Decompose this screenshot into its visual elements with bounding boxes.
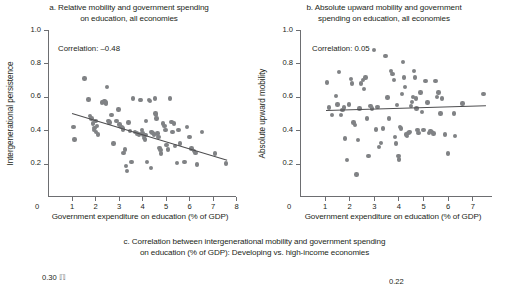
panel-a-title-line1: a. Relative mobility and government spen… [10, 2, 248, 13]
scatter-point [362, 87, 366, 91]
scatter-point [185, 125, 189, 129]
x-axis-tick: 7 [213, 197, 214, 201]
scatter-point [126, 120, 130, 124]
scatter-point [397, 157, 401, 161]
scatter-point [410, 100, 414, 104]
scatter-point [154, 116, 158, 120]
scatter-point [82, 76, 86, 80]
panel-c-left-axis-top-tick: 0.30ℿ [42, 273, 66, 282]
scatter-point [200, 130, 204, 134]
scatter-point [399, 126, 403, 130]
scatter-point [182, 160, 186, 164]
panel-a-y-axis-line [48, 30, 49, 197]
scatter-point [334, 94, 338, 98]
scatter-point [443, 132, 447, 136]
x-axis-tick: 5 [166, 197, 167, 201]
scatter-point [149, 166, 153, 170]
panel-c-left-axis-top-value: 0.30 [42, 273, 57, 282]
scatter-point [354, 172, 358, 176]
scatter-point [170, 130, 174, 134]
panel-a-title-line2: on education, all economies [10, 13, 248, 24]
scatter-point [337, 70, 341, 74]
scatter-point [433, 79, 437, 83]
scatter-point [440, 96, 444, 100]
y-axis-tick: 0.6 [296, 97, 300, 98]
chart-panel-b: b. Absolute upward mobility and governme… [255, 0, 509, 225]
figure-container: a. Relative mobility and government spen… [0, 0, 509, 288]
scatter-point [452, 111, 456, 115]
scatter-point [176, 128, 180, 132]
scatter-point [71, 125, 75, 129]
scatter-point [163, 128, 167, 132]
scatter-point [412, 69, 416, 73]
x-axis-tick-label: 2 [93, 202, 97, 211]
panel-c-right-axis-top-value: 0.22 [389, 277, 404, 286]
panel-b-y-axis-line [300, 30, 301, 197]
x-axis-tick-label: 7 [211, 202, 215, 211]
scatter-point [330, 113, 334, 117]
y-axis-tick: 0.4 [44, 130, 48, 131]
scatter-point [403, 85, 407, 89]
scatter-point [402, 75, 406, 79]
scatter-point [111, 141, 115, 145]
scatter-point [390, 72, 394, 76]
scatter-point [407, 130, 411, 134]
x-axis-tick-label: 7 [471, 202, 475, 211]
scatter-point [395, 103, 399, 107]
x-axis-tick: 2 [95, 197, 96, 201]
x-axis-tick-label: 1 [323, 202, 327, 211]
scatter-point [350, 81, 354, 85]
y-axis-tick-label: 0.8 [30, 58, 41, 67]
panel-c-title-line2: on education (% of GDP): Developing vs. … [0, 247, 509, 258]
scatter-point [95, 124, 99, 128]
y-axis-tick-label: 0.4 [282, 125, 293, 134]
scatter-point [387, 116, 391, 120]
scatter-point [195, 162, 199, 166]
panel-c-title: c. Correlation between intergenerational… [0, 236, 509, 259]
scatter-point [347, 102, 351, 106]
scatter-point [131, 96, 135, 100]
panel-a-plot-area: 0 0.20.40.60.81.012345678 [48, 30, 236, 197]
x-axis-tick-label: 4 [397, 202, 401, 211]
scatter-point [129, 160, 133, 164]
scatter-point [421, 128, 425, 132]
scatter-point [143, 137, 147, 141]
scatter-point [418, 90, 422, 94]
scatter-point [139, 98, 143, 102]
scatter-point [414, 96, 418, 100]
trend-line [71, 113, 226, 161]
x-axis-tick: 7 [472, 197, 473, 201]
scatter-point [109, 113, 113, 117]
scatter-point [339, 113, 343, 117]
scatter-point [377, 145, 381, 149]
scatter-point [224, 161, 228, 165]
scatter-point [168, 96, 172, 100]
scatter-point [343, 136, 347, 140]
x-axis-tick: 3 [119, 197, 120, 201]
scatter-point [379, 141, 383, 145]
y-axis-tick-label: 0.6 [282, 91, 293, 100]
scatter-point [363, 75, 367, 79]
panel-b-title: b. Absolute upward mobility and governme… [265, 2, 503, 24]
scatter-point [435, 95, 439, 99]
panel-a-correlation-note: Correlation: –0.48 [58, 44, 120, 53]
panel-b-x-axis-line [300, 196, 492, 197]
scatter-point [153, 96, 157, 100]
scatter-point [148, 99, 152, 103]
scatter-point [400, 92, 404, 96]
scatter-point [104, 101, 108, 105]
scatter-point [413, 75, 417, 79]
scatter-point [345, 158, 349, 162]
scatter-point [335, 102, 339, 106]
scatter-point [116, 107, 120, 111]
scatter-point [86, 97, 90, 101]
scatter-point [416, 131, 420, 135]
scatter-point [372, 48, 376, 52]
y-axis-tick: 1.0 [296, 30, 300, 31]
scatter-point [105, 85, 109, 89]
y-axis-tick: 0.6 [44, 97, 48, 98]
panel-b-xtick-zero: 0 [287, 202, 291, 211]
scatter-point [144, 119, 148, 123]
scatter-point [436, 90, 440, 94]
panel-a-xtick-zero: 0 [35, 202, 39, 211]
